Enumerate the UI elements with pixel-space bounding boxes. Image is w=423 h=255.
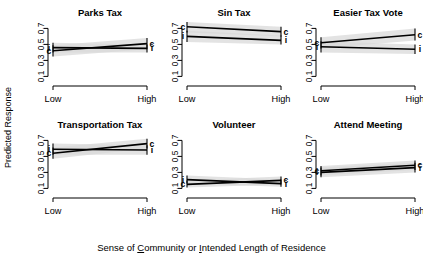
y-axis-tick-label: 0.7 — [170, 134, 180, 146]
y-axis-tick-label: 0.5 — [304, 150, 314, 162]
x-axis-tick-label: High — [406, 94, 423, 104]
x-axis-tick-label: Low — [45, 94, 62, 104]
x-axis-tick-label: High — [272, 206, 291, 216]
x-axis-bracket — [187, 198, 281, 202]
y-axis-tick-label: 0.1 — [304, 182, 314, 194]
y-axis-tick-label: 0.7 — [36, 134, 46, 146]
y-axis-tick-label: 0.1 — [170, 182, 180, 194]
y-axis-tick-label: 0.1 — [304, 70, 314, 82]
y-axis-label: Predicted Response — [0, 0, 16, 255]
point-label-i-high: i — [419, 44, 421, 54]
point-label-i-low: i — [48, 144, 50, 154]
point-label-i-low: i — [182, 175, 184, 185]
x-axis-bracket — [53, 198, 147, 202]
point-label-i-high: i — [151, 145, 153, 155]
y-axis-tick-label: 0.3 — [36, 54, 46, 66]
x-axis-label-part-3: ntended Length of Residence — [202, 242, 326, 253]
panel-plot: 0.10.30.50.7LowHighccii — [155, 8, 289, 111]
panel-transportation-tax: Transportation Tax0.10.30.50.7LowHighcci… — [21, 120, 155, 223]
panel-title: Volunteer — [187, 119, 281, 130]
y-axis-tick-label: 0.7 — [304, 22, 314, 34]
panel-attend-meeting: Attend Meeting0.10.30.50.7LowHighccii — [289, 120, 423, 223]
panel-parks-tax: Parks Tax0.10.30.50.7LowHighccii — [21, 8, 155, 111]
x-axis-tick-label: Low — [45, 206, 62, 216]
x-axis-tick-label: Low — [313, 206, 330, 216]
panel-sin-tax: Sin Tax0.10.30.50.7LowHighccii — [155, 8, 289, 111]
x-axis-tick-label: High — [138, 206, 157, 216]
y-axis-tick-label: 0.3 — [170, 166, 180, 178]
x-axis-label-part-1: Sense of — [97, 242, 137, 253]
point-label-i-high: i — [151, 43, 153, 53]
y-axis-tick-label: 0.5 — [36, 150, 46, 162]
x-axis-tick-label: Low — [179, 206, 196, 216]
panel-title: Easier Tax Vote — [321, 7, 415, 18]
x-axis-bracket — [53, 86, 147, 90]
x-axis-tick-label: High — [272, 94, 291, 104]
point-label-i-low: i — [182, 31, 184, 41]
y-axis-tick-label: 0.3 — [304, 166, 314, 178]
y-axis-tick-label: 0.3 — [36, 166, 46, 178]
point-label-i-low: i — [316, 167, 318, 177]
panel-plot: 0.10.30.50.7LowHighccii — [289, 8, 423, 111]
x-axis-tick-label: High — [138, 94, 157, 104]
x-axis-label: Sense of Community or Intended Length of… — [0, 242, 423, 253]
point-label-i-low: i — [316, 42, 318, 52]
y-axis-tick-label: 0.7 — [304, 134, 314, 146]
y-axis-tick-label: 0.3 — [304, 54, 314, 66]
y-axis-tick-label: 0.5 — [36, 38, 46, 50]
point-label-i-high: i — [419, 163, 421, 173]
y-axis-tick-label: 0.1 — [170, 70, 180, 82]
y-axis-tick-label: 0.3 — [170, 54, 180, 66]
point-label-i-high: i — [285, 179, 287, 189]
panel-title: Attend Meeting — [321, 119, 415, 130]
x-axis-tick-label: High — [406, 206, 423, 216]
panel-plot: 0.10.30.50.7LowHighccii — [21, 8, 155, 111]
x-axis-label-part-2: ommunity or — [144, 242, 199, 253]
y-axis-tick-label: 0.5 — [170, 150, 180, 162]
point-label-i-low: i — [48, 43, 50, 53]
x-axis-bracket — [321, 198, 415, 202]
panel-volunteer: Volunteer0.10.30.50.7LowHighccii — [155, 120, 289, 223]
series-line-i — [53, 149, 147, 150]
x-axis-bracket — [187, 86, 281, 90]
y-axis-tick-label: 0.1 — [36, 182, 46, 194]
panel-plot: 0.10.30.50.7LowHighccii — [155, 120, 289, 223]
panel-title: Parks Tax — [53, 7, 147, 18]
y-axis-tick-label: 0.5 — [170, 38, 180, 50]
x-axis-tick-label: Low — [313, 94, 330, 104]
x-axis-bracket — [321, 86, 415, 90]
panel-plot: 0.10.30.50.7LowHighccii — [21, 120, 155, 223]
y-axis-tick-label: 0.5 — [304, 38, 314, 50]
panel-title: Sin Tax — [187, 7, 281, 18]
point-label-c-high: c — [418, 30, 423, 40]
panel-easier-tax-vote: Easier Tax Vote0.10.30.50.7LowHighccii — [289, 8, 423, 111]
point-label-c-low: c — [181, 22, 186, 32]
y-axis-tick-label: 0.7 — [36, 22, 46, 34]
panel-plot: 0.10.30.50.7LowHighccii — [289, 120, 423, 223]
y-axis-tick-label: 0.1 — [36, 70, 46, 82]
y-axis-tick-label: 0.7 — [170, 22, 180, 34]
multi-panel-line-chart: Predicted Response Parks Tax0.10.30.50.7… — [0, 0, 423, 255]
x-axis-tick-label: Low — [179, 94, 196, 104]
series-line-i — [53, 48, 147, 49]
panel-title: Transportation Tax — [53, 119, 147, 130]
point-label-i-high: i — [285, 35, 287, 45]
